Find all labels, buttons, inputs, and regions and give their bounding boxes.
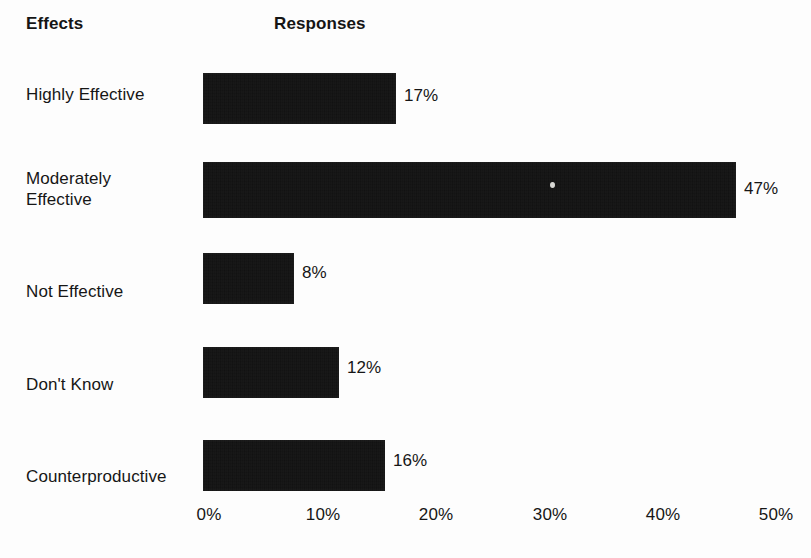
bar: [203, 253, 294, 304]
x-axis-tick-label: 30%: [533, 505, 567, 525]
bar: [203, 73, 396, 124]
category-label: Counterproductive: [26, 466, 167, 487]
x-axis-tick-label: 0%: [197, 505, 222, 525]
x-axis-tick-label: 10%: [306, 505, 340, 525]
bar-chart-plot-area: Highly Effective 17% Moderately Effectiv…: [0, 0, 811, 558]
chart-page: Effects Responses Highly Effective 17% M…: [0, 0, 811, 558]
category-label: Don't Know: [26, 374, 113, 395]
bar-value-label: 47%: [744, 179, 778, 199]
bar-value-label: 16%: [393, 451, 427, 471]
scan-artifact-speck: [550, 182, 555, 188]
category-label: Not Effective: [26, 281, 123, 302]
category-label: Moderately Effective: [26, 168, 111, 210]
x-axis-tick-label: 50%: [759, 505, 793, 525]
bar: [203, 440, 385, 491]
bar-value-label: 8%: [302, 263, 327, 283]
x-axis-tick-label: 40%: [646, 505, 680, 525]
category-label: Highly Effective: [26, 84, 144, 105]
bar-value-label: 12%: [347, 358, 381, 378]
x-axis-tick-label: 20%: [419, 505, 453, 525]
bar: [203, 347, 339, 398]
bar: [203, 162, 736, 218]
bar-value-label: 17%: [404, 86, 438, 106]
